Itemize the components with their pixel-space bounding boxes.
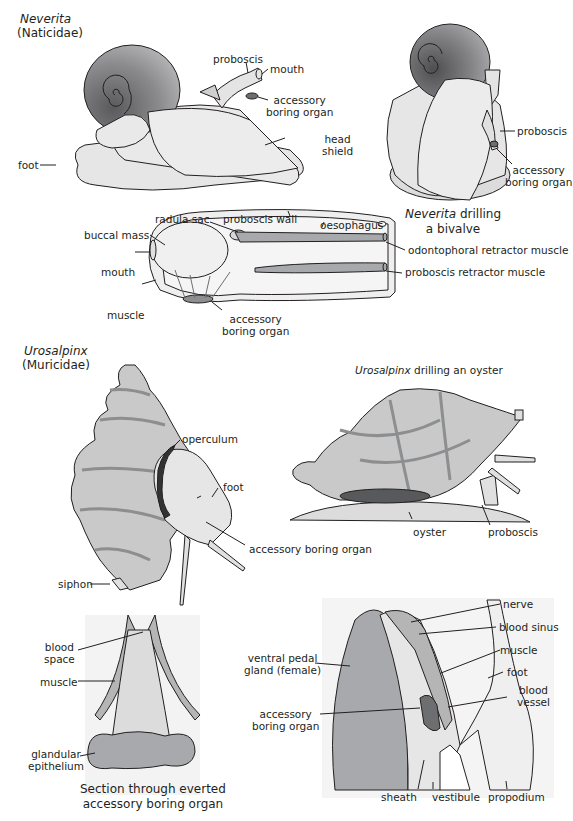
label-foot-section-foot: foot [507, 666, 528, 678]
label-abo-muscle: muscle [40, 676, 78, 688]
label-glandular-epithelium: glandular epithelium [28, 748, 84, 772]
illustration-canvas [0, 0, 573, 821]
label-oyster-proboscis: proboscis [488, 526, 538, 538]
label-blood-space: blood space [44, 641, 75, 665]
neverita-drilling-caption: Neverita drilling a bivalve [405, 207, 501, 237]
label-ventral-pedal-gland: ventral pedal gland (female) [244, 652, 321, 676]
label-sheath: sheath [381, 791, 417, 803]
label-oyster: oyster [413, 526, 446, 538]
label-foot-muscle: muscle [500, 644, 538, 656]
label-nerve: nerve [503, 598, 533, 610]
neverita-family: (Naticidae) [17, 26, 83, 40]
label-propodium: propodium [488, 791, 545, 803]
label-blood-vessel: blood vessel [517, 684, 550, 708]
label-foot-accessory-boring-organ: accessory boring organ [252, 708, 319, 732]
label-siphon: siphon [58, 578, 93, 590]
urosalpinx-drilling-illustration [290, 389, 535, 522]
label-oesophagus: oesophagus [320, 219, 383, 231]
neverita-drilling-illustration [387, 24, 510, 200]
label-urosalpinx-foot: foot [223, 481, 244, 493]
neverita-title: Neverita [20, 12, 71, 26]
urosalpinx-illustration [71, 365, 245, 605]
label-drilling-accessory-boring-organ: accessory boring organ [505, 164, 572, 188]
label-mouth: mouth [270, 63, 304, 75]
urosalpinx-family: (Muricidae) [22, 358, 90, 372]
label-urosalpinx-accessory-boring-organ: accessory boring organ [249, 543, 372, 555]
abo-section-illustration [85, 615, 200, 795]
abo-section-caption: Section through everted accessory boring… [80, 782, 226, 812]
label-vestibule: vestibule [432, 791, 480, 803]
urosalpinx-genus: Urosalpinx [24, 344, 88, 358]
neverita-genus: Neverita [20, 12, 71, 26]
label-accessory-boring-organ: accessory boring organ [266, 94, 333, 118]
label-radula-sac: radula sac [155, 213, 209, 225]
label-section-accessory-boring-organ: accessory boring organ [222, 313, 289, 337]
label-head-shield: head shield [322, 133, 353, 157]
label-mouth-section: mouth [101, 266, 135, 278]
label-drilling-proboscis: proboscis [517, 125, 567, 137]
urosalpinx-title: Urosalpinx [24, 344, 88, 358]
label-proboscis-wall: proboscis wall [223, 213, 297, 225]
label-blood-sinus: blood sinus [499, 621, 559, 633]
label-buccal-mass: buccal mass [84, 229, 149, 241]
label-proboscis: proboscis [213, 53, 263, 65]
label-foot: foot [18, 159, 39, 171]
label-odontophoral-retractor-muscle: odontophoral retractor muscle [408, 244, 568, 256]
label-proboscis-retractor-muscle: proboscis retractor muscle [405, 266, 545, 278]
urosalpinx-drilling-caption: Urosalpinx drilling an oyster [355, 363, 503, 378]
label-operculum: operculum [182, 433, 238, 445]
label-muscle-section: muscle [107, 309, 145, 321]
